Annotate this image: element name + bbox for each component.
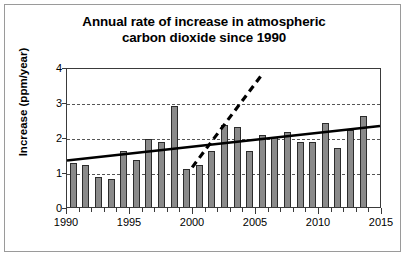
bar-2011 [334,148,341,208]
bar-1995 [133,160,140,207]
bar-1996 [145,139,152,207]
x-tick-1990 [66,208,67,214]
x-tick-1997 [154,208,155,212]
bar-2004 [246,151,253,207]
bar-1998 [171,106,178,208]
bar-2007 [284,132,291,207]
bar-2013 [360,116,367,207]
x-tick-label-2015: 2015 [369,216,393,228]
y-tick-label-4: 4 [44,63,62,73]
plot-area [66,68,381,208]
x-tick-2012 [343,208,344,212]
x-tick-2010 [318,208,319,214]
chart-title-line-1: Annual rate of increase in atmospheric [24,14,384,30]
y-tick-label-3: 3 [44,98,62,108]
bar-2010 [322,123,329,207]
x-tick-2009 [305,208,306,212]
x-tick-2000 [192,208,193,214]
x-tick-2014 [368,208,369,212]
y-axis-title: Increase (ppm/year) [17,17,29,187]
x-tick-2011 [331,208,332,212]
bar-2000 [196,165,203,207]
x-tick-label-2005: 2005 [243,216,267,228]
x-tick-1992 [91,208,92,212]
x-tick-1996 [142,208,143,212]
x-tick-1991 [79,208,80,212]
bar-1994 [120,151,127,207]
bar-2003 [234,127,241,208]
x-tick-2001 [205,208,206,212]
x-axis-tick-labels: 199019952000200520102015 [0,212,405,228]
bar-1993 [108,179,115,207]
x-tick-1998 [167,208,168,212]
bar-2009 [309,142,316,207]
bar-2001 [208,151,215,207]
bar-2006 [271,137,278,207]
bar-2008 [297,142,304,207]
x-tick-label-1990: 1990 [54,216,78,228]
x-tick-2013 [356,208,357,212]
bar-1992 [95,177,102,207]
x-tick-1995 [129,208,130,214]
bar-1991 [82,165,89,207]
bar-2005 [259,135,266,207]
bar-1997 [158,142,165,207]
bar-2002 [221,125,228,207]
bar-1990 [70,163,77,207]
bar-1999 [183,169,190,208]
gridline-3 [67,104,380,105]
x-tick-2006 [268,208,269,212]
y-axis-tick-labels: 01234 [44,60,62,216]
x-tick-1999 [179,208,180,212]
x-tick-2004 [242,208,243,212]
x-tick-2007 [280,208,281,212]
x-tick-label-1995: 1995 [117,216,141,228]
y-tick-label-1: 1 [44,168,62,178]
y-tick-label-2: 2 [44,133,62,143]
x-tick-2003 [230,208,231,212]
x-tick-2002 [217,208,218,212]
x-tick-1993 [104,208,105,212]
chart-title: Annual rate of increase in atmospheric c… [24,14,384,46]
x-tick-label-2000: 2000 [180,216,204,228]
bar-2012 [347,130,354,207]
x-tick-2008 [293,208,294,212]
chart-title-line-2: carbon dioxide since 1990 [24,30,384,46]
x-tick-label-2010: 2010 [306,216,330,228]
x-tick-2005 [255,208,256,214]
x-tick-1994 [116,208,117,212]
chart-figure: Annual rate of increase in atmospheric c… [0,0,405,256]
x-tick-2015 [381,208,382,214]
